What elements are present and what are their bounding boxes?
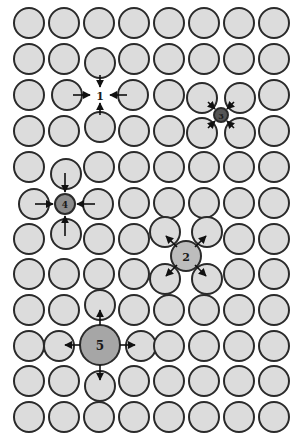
defect-number-label: 2	[182, 251, 190, 264]
lattice-atom	[187, 83, 217, 113]
lattice-atom	[225, 83, 255, 113]
lattice-atom	[126, 331, 156, 361]
lattice-atom	[154, 80, 184, 110]
lattice-atom	[119, 295, 149, 325]
defect-5-interstitial-large: 5	[80, 325, 120, 365]
lattice-atom	[189, 152, 219, 182]
lattice-atom	[14, 402, 44, 432]
lattice-atom	[154, 152, 184, 182]
lattice-atom	[259, 116, 289, 146]
lattice-atom	[84, 8, 114, 38]
lattice-atom	[224, 366, 254, 396]
lattice-atom	[154, 295, 184, 325]
lattice-atom	[154, 402, 184, 432]
lattice-atom	[14, 331, 44, 361]
lattice-atom	[85, 48, 115, 78]
lattice-atom	[84, 259, 114, 289]
lattice-atom	[49, 366, 79, 396]
lattice-atom	[224, 224, 254, 254]
lattice-atom	[119, 44, 149, 74]
lattice-atom	[259, 259, 289, 289]
lattice-atom	[189, 402, 219, 432]
lattice-atom	[192, 264, 222, 294]
lattice-atom	[119, 366, 149, 396]
lattice-atom	[154, 188, 184, 218]
lattice-atom	[14, 80, 44, 110]
lattice-atom	[224, 295, 254, 325]
defect-number-label: 3	[218, 111, 224, 121]
lattice-atom	[259, 366, 289, 396]
lattice-atom	[224, 331, 254, 361]
lattice-atom	[14, 44, 44, 74]
lattice-atom	[154, 44, 184, 74]
lattice-atom	[49, 295, 79, 325]
lattice-atom	[259, 331, 289, 361]
lattice-atom	[119, 224, 149, 254]
lattice-atom	[189, 366, 219, 396]
lattice-atom	[259, 152, 289, 182]
lattice-atom	[150, 264, 180, 294]
defect-4-substitutional-smaller: 4	[55, 194, 75, 214]
defect-number-label: 1	[96, 90, 104, 103]
lattice-atom	[84, 402, 114, 432]
lattice-atom	[84, 224, 114, 254]
lattice-atom	[154, 366, 184, 396]
lattice-atom	[119, 402, 149, 432]
lattice-atom	[259, 44, 289, 74]
lattice-atom	[14, 224, 44, 254]
lattice-atom	[49, 44, 79, 74]
lattice-atom	[259, 80, 289, 110]
lattice-atom	[119, 8, 149, 38]
lattice-atom	[224, 152, 254, 182]
lattice-atom	[224, 259, 254, 289]
lattice-atom	[154, 331, 184, 361]
lattice-atom	[119, 116, 149, 146]
lattice-atom	[14, 8, 44, 38]
lattice-atom	[14, 152, 44, 182]
lattice-atom	[189, 331, 219, 361]
lattice-atom	[44, 331, 74, 361]
lattice-atom	[14, 116, 44, 146]
lattice-atom	[51, 159, 81, 189]
lattice-atom	[259, 188, 289, 218]
lattice-atom	[49, 259, 79, 289]
defect-number-label: 4	[62, 200, 68, 210]
lattice-atom	[189, 188, 219, 218]
lattice-atom	[224, 44, 254, 74]
lattice-atom	[84, 152, 114, 182]
lattice-atom	[49, 402, 79, 432]
lattice-diagram: 12345	[0, 0, 303, 442]
lattice-atom	[14, 295, 44, 325]
lattice-atom	[14, 259, 44, 289]
defect-number-label: 5	[96, 339, 104, 353]
lattice-atom	[51, 219, 81, 249]
lattice-atom	[119, 259, 149, 289]
lattice-atom	[154, 8, 184, 38]
lattice-atom	[192, 217, 222, 247]
lattice-atom	[49, 8, 79, 38]
lattice-atom	[224, 402, 254, 432]
lattice-atom	[259, 8, 289, 38]
lattice-atom	[189, 295, 219, 325]
lattice-atom	[119, 152, 149, 182]
lattice-atom	[150, 217, 180, 247]
lattice-atom	[259, 224, 289, 254]
lattice-atom	[154, 116, 184, 146]
defect-3-interstitial-small: 3	[214, 108, 228, 122]
lattice-atom	[224, 8, 254, 38]
lattice-atom	[189, 44, 219, 74]
lattice-atom	[259, 402, 289, 432]
defect-1-vacancy: 1	[96, 90, 104, 103]
lattice-atoms	[14, 8, 289, 432]
lattice-atom	[14, 366, 44, 396]
lattice-atom	[119, 188, 149, 218]
lattice-atom	[259, 295, 289, 325]
lattice-atom	[189, 8, 219, 38]
lattice-atom	[224, 188, 254, 218]
lattice-atom	[49, 116, 79, 146]
lattice-atom	[85, 112, 115, 142]
